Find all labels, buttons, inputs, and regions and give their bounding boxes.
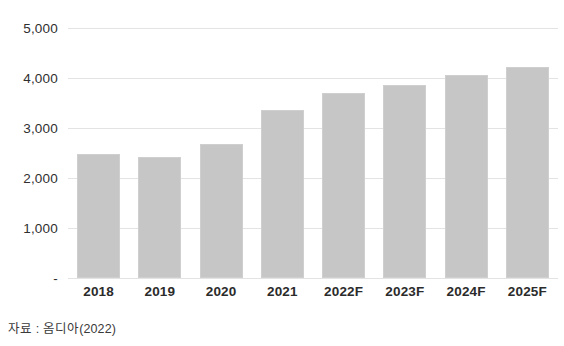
x-axis: 20182019202020212022F2023F2024F2025F <box>68 284 558 306</box>
x-axis-tick-label: 2024F <box>436 284 496 299</box>
bar <box>138 157 181 278</box>
y-axis: -1,0002,0003,0004,0005,000 <box>0 28 62 278</box>
y-axis-tick-label: 3,000 <box>23 121 58 136</box>
bar <box>383 85 426 279</box>
bar-chart-figure: -1,0002,0003,0004,0005,000 2018201920202… <box>0 0 564 346</box>
bar-series <box>68 28 558 278</box>
plot-area <box>68 28 558 278</box>
x-axis-tick-label: 2023F <box>375 284 435 299</box>
gridline <box>68 278 558 279</box>
x-axis-tick-label: 2021 <box>252 284 312 299</box>
y-axis-tick-label: 5,000 <box>23 21 58 36</box>
x-axis-tick-label: 2019 <box>130 284 190 299</box>
source-note: 자료 : 옴디아(2022) <box>8 318 116 337</box>
x-axis-tick-label: 2022F <box>314 284 374 299</box>
bar <box>261 110 304 278</box>
y-axis-tick-label: 2,000 <box>23 171 58 186</box>
bar <box>200 144 243 279</box>
x-axis-tick-label: 2018 <box>69 284 129 299</box>
x-axis-tick-label: 2020 <box>191 284 251 299</box>
x-axis-tick-label: 2025F <box>497 284 557 299</box>
bar <box>445 75 488 278</box>
y-axis-tick-label: 4,000 <box>23 71 58 86</box>
y-axis-tick-label: 1,000 <box>23 221 58 236</box>
bar <box>506 67 549 278</box>
y-axis-tick-label: - <box>53 271 58 286</box>
bar <box>322 93 365 278</box>
bar <box>77 154 120 279</box>
